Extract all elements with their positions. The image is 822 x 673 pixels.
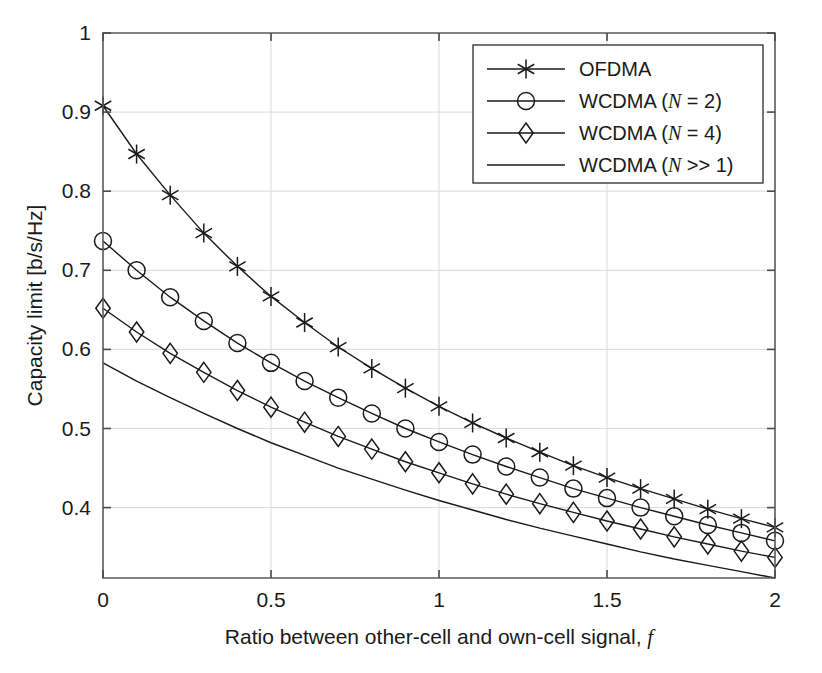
legend-label: OFDMA bbox=[579, 58, 652, 80]
chart-figure: 0.40.50.60.70.80.9100.511.52 Ratio betwe… bbox=[0, 0, 822, 673]
y-axis-title: Capacity limit [b/s/Hz] bbox=[23, 205, 46, 407]
y-tick-label: 1 bbox=[79, 21, 91, 44]
y-tick-label: 0.6 bbox=[62, 337, 91, 360]
y-tick-label: 0.9 bbox=[62, 100, 91, 123]
x-tick-label: 1 bbox=[433, 588, 445, 611]
x-tick-label: 2 bbox=[769, 588, 781, 611]
legend-label: WCDMA (N >> 1) bbox=[579, 154, 734, 176]
y-tick-label: 0.4 bbox=[62, 496, 92, 519]
capacity-limit-line-chart: 0.40.50.60.70.80.9100.511.52 Ratio betwe… bbox=[0, 0, 822, 673]
legend-label: WCDMA (N = 4) bbox=[579, 122, 722, 144]
y-tick-label: 0.8 bbox=[62, 179, 91, 202]
x-axis-title: Ratio between other-cell and own-cell si… bbox=[225, 625, 657, 649]
x-tick-label: 0 bbox=[97, 588, 109, 611]
x-tick-label: 1.5 bbox=[592, 588, 621, 611]
x-tick-label: 0.5 bbox=[256, 588, 285, 611]
legend-item[interactable]: WCDMA (N = 2) bbox=[487, 90, 722, 112]
chart-legend: OFDMAWCDMA (N = 2)WCDMA (N = 4)WCDMA (N … bbox=[473, 45, 763, 183]
y-tick-label: 0.7 bbox=[62, 258, 91, 281]
legend-label: WCDMA (N = 2) bbox=[579, 90, 722, 112]
y-tick-label: 0.5 bbox=[62, 417, 91, 440]
